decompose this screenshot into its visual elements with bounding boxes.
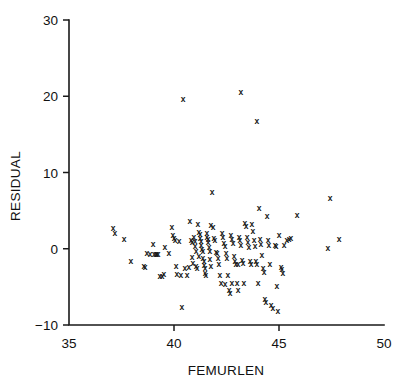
y-axis-title: RESIDUAL	[8, 151, 23, 221]
data-point: x	[276, 306, 281, 316]
y-tick-label-0: 0	[50, 242, 58, 257]
x-tick-label-40: 40	[166, 336, 181, 351]
y-tick-label-20: 20	[43, 89, 58, 104]
data-point: x	[326, 243, 331, 253]
data-point: x	[236, 285, 241, 295]
data-point: x	[122, 234, 127, 244]
residual-vs-femurlen-scatter-chart: −100102030 35404550 FEMURLEN RESIDUAL xx…	[0, 0, 401, 385]
data-point: x	[251, 226, 256, 236]
data-point: x	[225, 253, 230, 263]
data-point-group: xxxxxxxxxxxxxxxxxxxxxxxxxxxxxxxxxxxxxxxx…	[111, 87, 342, 315]
y-tick-label--10: −10	[35, 318, 58, 333]
data-point: x	[180, 302, 185, 312]
data-point: x	[337, 234, 342, 244]
data-point: x	[228, 288, 233, 298]
y-tick-label-30: 30	[43, 13, 58, 28]
data-point: x	[239, 87, 244, 97]
y-axis-tick-labels: −100102030	[35, 13, 58, 333]
data-point: x	[195, 263, 200, 273]
data-point: x	[242, 278, 247, 288]
data-point: x	[255, 116, 260, 126]
data-point: x	[230, 278, 235, 288]
data-point: x	[129, 256, 134, 266]
data-point: x	[143, 262, 148, 272]
data-point: x	[155, 249, 160, 259]
data-point: x	[236, 259, 241, 269]
x-axis-title: FEMURLEN	[188, 363, 265, 378]
data-point: x	[275, 281, 280, 291]
data-point: x	[177, 236, 182, 246]
data-point: x	[281, 268, 286, 278]
data-point: x	[241, 258, 246, 268]
data-point: x	[277, 230, 282, 240]
data-point: x	[265, 211, 270, 221]
data-point: x	[256, 278, 261, 288]
data-point: x	[167, 248, 172, 258]
data-point: x	[223, 279, 228, 289]
data-point: x	[188, 216, 193, 226]
scatter-plot-figure: −100102030 35404550 FEMURLEN RESIDUAL xx…	[0, 0, 401, 385]
data-point: x	[328, 193, 333, 203]
data-point: x	[151, 239, 156, 249]
data-point: x	[259, 239, 264, 249]
data-point: x	[260, 250, 265, 260]
data-point: x	[257, 203, 262, 213]
data-point: x	[181, 94, 186, 104]
data-point: x	[231, 238, 236, 248]
x-tick-label-35: 35	[61, 336, 76, 351]
x-tick-label-45: 45	[271, 336, 286, 351]
x-axis-tick-labels: 35404550	[61, 336, 391, 351]
data-point: x	[274, 241, 279, 251]
data-point: x	[213, 235, 218, 245]
data-point: x	[197, 251, 202, 261]
data-point: x	[162, 269, 167, 279]
y-tick-label-10: 10	[43, 166, 58, 181]
x-axis-ticks	[174, 325, 279, 331]
data-point: x	[113, 228, 118, 238]
x-tick-label-50: 50	[376, 336, 391, 351]
data-point: x	[289, 233, 294, 243]
data-point: x	[211, 222, 216, 232]
data-point: x	[204, 270, 209, 280]
data-point: x	[210, 187, 215, 197]
data-point: x	[268, 259, 273, 269]
data-point: x	[267, 240, 272, 250]
data-point: x	[244, 221, 249, 231]
data-point: x	[262, 267, 267, 277]
data-point: x	[239, 240, 244, 250]
data-point: x	[209, 261, 214, 271]
data-point: x	[295, 210, 300, 220]
data-point: x	[217, 259, 222, 269]
y-axis-ticks	[63, 20, 69, 325]
